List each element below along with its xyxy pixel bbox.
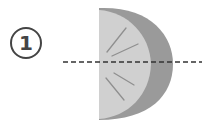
half-citrus-icon [0, 0, 202, 123]
diagram: 1 [0, 0, 202, 123]
